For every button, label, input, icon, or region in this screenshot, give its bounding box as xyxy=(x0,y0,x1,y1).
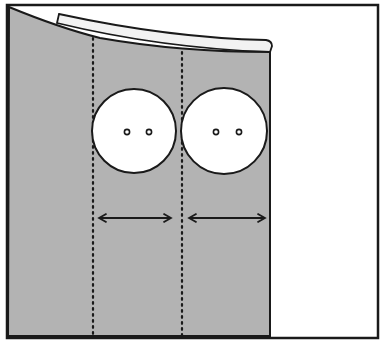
button-hole-icon xyxy=(146,129,151,134)
button-2 xyxy=(181,88,267,174)
button-hole-icon xyxy=(236,129,241,134)
button-placement-diagram xyxy=(0,0,391,348)
button-hole-icon xyxy=(124,129,129,134)
button-hole-icon xyxy=(213,129,218,134)
button-1 xyxy=(92,89,176,173)
